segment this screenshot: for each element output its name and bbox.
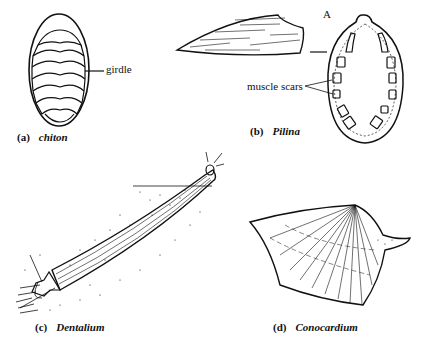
dentalium-drawing: [16, 152, 224, 313]
caption-c: (c)Dentalium: [35, 321, 105, 333]
label-muscle-scars: muscle scars: [247, 80, 303, 92]
caption-b: (b)Pilina: [250, 125, 300, 137]
sand-stipple: [24, 189, 392, 310]
label-girdle: girdle: [106, 63, 132, 75]
caption-d: (d)Conocardium: [273, 321, 358, 333]
chiton-drawing: [29, 14, 104, 126]
mollusc-figure: [0, 0, 425, 348]
conocardium-drawing: [250, 205, 410, 305]
pilina-side-drawing: [177, 15, 327, 55]
caption-a: (a)chiton: [17, 131, 68, 143]
pilina-top-drawing: [305, 15, 403, 143]
label-A: A: [323, 8, 331, 20]
